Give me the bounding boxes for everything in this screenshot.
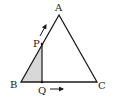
label-c: C: [98, 80, 106, 91]
label-p: P: [33, 38, 40, 49]
label-q: Q: [38, 85, 46, 96]
label-a: A: [54, 2, 63, 13]
arrow-p-icon: [40, 25, 46, 36]
triangle-diagram: A B C P Q: [0, 0, 114, 103]
point-q: [41, 81, 44, 84]
point-p: [41, 43, 44, 46]
label-b: B: [10, 79, 17, 90]
